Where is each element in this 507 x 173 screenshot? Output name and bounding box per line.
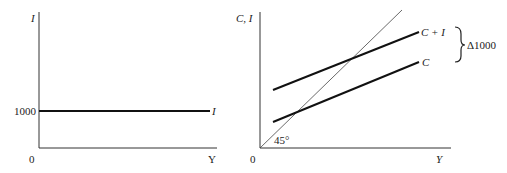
right-y-axis-label: C, I [236, 12, 254, 24]
left-y-axis-label: I [30, 12, 36, 24]
c-plus-i-line [273, 32, 419, 90]
left-x-axis-label: Y [208, 153, 216, 165]
c-plus-i-label: C + I [421, 26, 446, 38]
left-panel: I 1000 I 0 Y [14, 12, 217, 165]
consumption-label: C [422, 56, 430, 68]
delta-label: Δ1000 [467, 39, 497, 51]
angle-label: 45° [274, 134, 289, 146]
right-origin-label: 0 [250, 153, 256, 165]
investment-line-label: I [211, 105, 217, 117]
delta-brace [455, 27, 465, 62]
right-panel: C, I 45° C + I C Δ1000 0 Y [236, 10, 497, 165]
tick-1000: 1000 [14, 105, 37, 117]
consumption-line [273, 62, 419, 122]
diagram-canvas: I 1000 I 0 Y C, I 45° C + I C Δ1000 0 Y [0, 0, 507, 173]
forty-five-degree-line [260, 10, 402, 148]
right-x-axis-label: Y [436, 153, 444, 165]
left-origin-label: 0 [29, 153, 35, 165]
